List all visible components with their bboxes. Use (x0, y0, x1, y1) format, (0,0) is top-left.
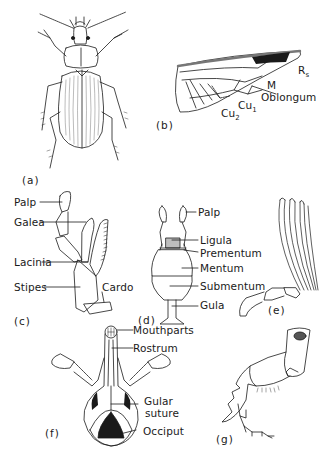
label-rs: Rs (298, 65, 309, 76)
panel-tag-f: (f) (45, 428, 60, 439)
panel-tag-g: (g) (216, 434, 234, 445)
label-labium-palp: Palp (198, 207, 220, 218)
panel-tag-a: (a) (22, 175, 40, 186)
label-cu2: Cu2 (221, 108, 240, 119)
label-occiput: Occiput (143, 426, 184, 437)
label-maxilla-palp: Palp (14, 197, 36, 208)
panel-tag-b: (b) (156, 120, 174, 131)
figure-illustrations (0, 0, 334, 461)
label-oblongum: Oblongum (261, 92, 316, 103)
label-mouthparts: Mouthparts (133, 325, 194, 336)
label-gular: Gular (144, 396, 173, 407)
label-m: M (267, 80, 276, 91)
coleoptera-anatomy-figure: (a) (b) (c) (d) (e) (f) (g) Rs M Oblongu… (0, 0, 334, 461)
label-suture: suture (145, 408, 179, 419)
label-cu1: Cu1 (238, 100, 257, 111)
panel-tag-c: (c) (14, 316, 31, 327)
label-submentum: Submentum (200, 281, 265, 292)
label-mentum: Mentum (200, 263, 244, 274)
foreleg-illustration (222, 328, 310, 438)
label-lacinia: Lacinia (14, 257, 52, 268)
panel-tag-e: (e) (268, 305, 286, 316)
label-rostrum: Rostrum (133, 343, 178, 354)
label-galea: Galea (14, 217, 45, 228)
maxilla-illustration (40, 192, 112, 315)
label-cardo: Cardo (102, 282, 134, 293)
labium-illustration (152, 206, 198, 324)
beetle-illustration (38, 12, 128, 168)
label-stipes: Stipes (14, 282, 47, 293)
label-prementum: Prementum (200, 248, 262, 259)
label-ligula: Ligula (200, 235, 232, 246)
label-gula: Gula (200, 300, 225, 311)
